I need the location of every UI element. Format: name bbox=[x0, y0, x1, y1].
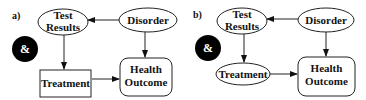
node-label: Health bbox=[130, 63, 162, 75]
node-label: Test bbox=[232, 8, 251, 20]
ampersand-icon: & bbox=[203, 41, 213, 55]
ampersand-circle: & bbox=[195, 35, 221, 61]
node-disorder: Disorder bbox=[298, 8, 354, 32]
node-treatment: Treatment bbox=[40, 70, 91, 97]
node-test-results: Test Results bbox=[217, 8, 267, 34]
node-label: Outcome bbox=[125, 76, 168, 88]
ampersand-icon: & bbox=[20, 42, 30, 56]
node-label: Disorder bbox=[305, 14, 347, 26]
node-label: Treatment bbox=[41, 77, 90, 89]
causal-diagram: a) Test Results Disorder & Treatment Hea… bbox=[0, 0, 366, 100]
panel-a: a) Test Results Disorder & Treatment Hea… bbox=[12, 8, 177, 97]
node-label: Disorder bbox=[127, 14, 169, 26]
node-health-outcome: Health Outcome bbox=[298, 57, 355, 96]
panel-b: b) Test Results Disorder & Treatment Hea… bbox=[193, 8, 355, 96]
node-test-results: Test Results bbox=[38, 9, 88, 35]
node-disorder: Disorder bbox=[119, 8, 177, 32]
node-label: Results bbox=[46, 21, 81, 33]
panel-label-b: b) bbox=[193, 9, 202, 21]
node-treatment: Treatment bbox=[216, 63, 270, 85]
node-health-outcome: Health Outcome bbox=[120, 58, 172, 96]
node-label: Test bbox=[53, 9, 72, 21]
node-label: Treatment bbox=[218, 68, 267, 80]
node-label: Outcome bbox=[305, 75, 348, 87]
panel-label-a: a) bbox=[12, 10, 20, 22]
ampersand-circle: & bbox=[12, 36, 38, 62]
node-label: Health bbox=[311, 62, 343, 74]
node-label: Results bbox=[225, 20, 260, 32]
